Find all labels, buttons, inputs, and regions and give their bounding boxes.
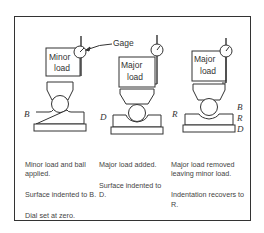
station-2-apparatus — [111, 35, 163, 134]
marker-r: R — [171, 109, 178, 119]
major-load-label-2: load — [200, 66, 216, 76]
side-label-b: B — [237, 102, 243, 112]
marker-b: B — [24, 109, 30, 119]
marker-d: D — [99, 112, 107, 122]
caption-line: Major load removed leaving minor load. — [171, 160, 249, 179]
caption-station-2: Major load added. Surface indented to D. — [99, 150, 167, 211]
major-load-label-2: load — [127, 72, 143, 82]
caption-station-3: Major load removed leaving minor load. I… — [171, 150, 249, 221]
side-label-d: D — [236, 124, 244, 134]
side-label-r: R — [236, 113, 243, 123]
specimen-base — [34, 124, 86, 131]
major-load-label-1: Major — [194, 54, 215, 64]
station-3-apparatus — [183, 38, 235, 132]
ball-indenter — [129, 105, 146, 122]
minor-load-label-1: Minor — [49, 52, 70, 62]
major-load-label-1: Major — [121, 60, 142, 70]
caption-line: Surface indented to D. — [99, 181, 167, 200]
caption-line: Major load added. — [99, 160, 167, 170]
caption-line: Minor load and ball applied. — [25, 160, 97, 179]
caption-line: Indentation recovers to R. — [171, 190, 249, 209]
ball-indenter — [201, 99, 218, 116]
minor-load-label-2: load — [54, 63, 70, 73]
gage-label: Gage — [113, 38, 134, 48]
caption-line: Dial set at zero. — [25, 211, 97, 221]
caption-station-1: Minor load and ball applied. Surface ind… — [25, 150, 97, 232]
caption-line: Surface indented to B. — [25, 190, 97, 200]
